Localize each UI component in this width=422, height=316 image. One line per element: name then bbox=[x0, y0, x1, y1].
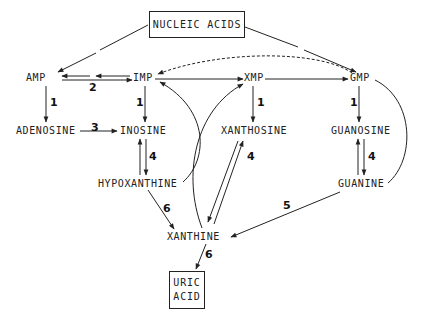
purine-pathway-diagram: NUCLEIC ACIDS AMP IMP XMP GMP ADENOSINE … bbox=[0, 0, 422, 316]
node-gmp: GMP bbox=[350, 72, 370, 84]
node-adenosine: ADENOSINE bbox=[16, 125, 76, 137]
arrow-nucleic-to-gmp-head bbox=[304, 50, 356, 72]
node-imp: IMP bbox=[133, 72, 153, 84]
node-guanosine: GUANOSINE bbox=[331, 125, 391, 137]
enzyme-label-xanthine-uric-acid: 6 bbox=[205, 249, 213, 261]
arrow-nucleic-to-amp bbox=[100, 25, 148, 50]
enzyme-label-imp-inosine: 1 bbox=[136, 97, 144, 109]
node-hypoxanthine: HYPOXANTHINE bbox=[98, 178, 177, 190]
enzyme-label-guanine-xanthine: 5 bbox=[283, 200, 291, 212]
enzyme-label-hypoxanthine-xanthine: 6 bbox=[163, 203, 171, 215]
arrow-nucleic-to-gmp bbox=[245, 27, 298, 47]
pathway-arrows bbox=[0, 0, 422, 316]
node-xmp: XMP bbox=[244, 72, 264, 84]
node-guanine: GUANINE bbox=[338, 178, 384, 190]
enzyme-label-guanosine-guanine: 4 bbox=[368, 151, 376, 163]
uric-acid-line2: ACID bbox=[170, 290, 204, 304]
enzyme-label-xanthosine-xanthine: 4 bbox=[247, 151, 255, 163]
node-amp: AMP bbox=[26, 72, 46, 84]
enzyme-label-xmp-xanthosine: 1 bbox=[257, 97, 265, 109]
enzyme-label-adenosine-inosine: 3 bbox=[91, 122, 99, 134]
enzyme-label-amp-adenosine: 1 bbox=[50, 97, 58, 109]
node-uric-acid: URIC ACID bbox=[169, 271, 205, 309]
enzyme-label-gmp-guanosine: 1 bbox=[350, 97, 358, 109]
uric-acid-line1: URIC bbox=[170, 276, 204, 290]
enzyme-label-inosine-hypoxanthine: 4 bbox=[149, 151, 157, 163]
arrow-nucleic-to-amp-head bbox=[58, 53, 96, 72]
node-xanthosine: XANTHOSINE bbox=[221, 125, 287, 137]
node-xanthine: XANTHINE bbox=[167, 231, 220, 243]
enzyme-label-amp-imp: 2 bbox=[89, 82, 97, 94]
node-nucleic-acids: NUCLEIC ACIDS bbox=[149, 11, 245, 38]
node-inosine: INOSINE bbox=[120, 125, 166, 137]
